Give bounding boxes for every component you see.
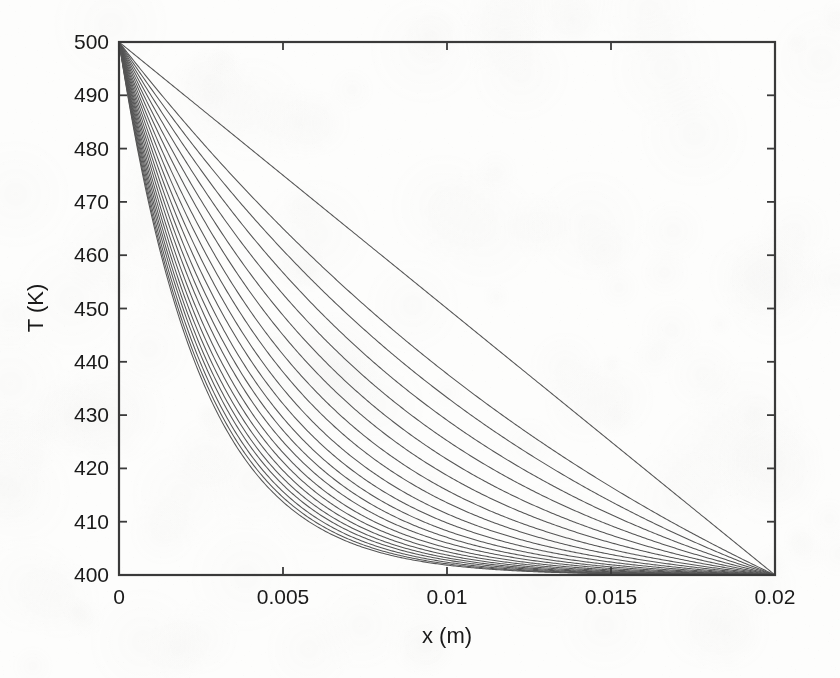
- y-tick-label: 470: [74, 190, 109, 214]
- x-tick-label: 0.01: [427, 585, 468, 609]
- y-tick-label: 490: [74, 83, 109, 107]
- x-tick-label: 0.005: [257, 585, 310, 609]
- figure-container: 400410420430440450460470480490500 00.005…: [0, 0, 840, 678]
- y-tick-label: 460: [74, 243, 109, 267]
- y-tick-label: 420: [74, 456, 109, 480]
- x-tick-label: 0: [113, 585, 125, 609]
- y-axis-label: T (K): [23, 278, 49, 338]
- y-tick-label: 410: [74, 510, 109, 534]
- y-tick-label: 400: [74, 563, 109, 587]
- y-tick-label: 430: [74, 403, 109, 427]
- plot-canvas: [0, 0, 840, 678]
- curve-line: [119, 42, 775, 575]
- y-tick-label: 440: [74, 350, 109, 374]
- y-tick-label: 500: [74, 30, 109, 54]
- curve-family: [119, 42, 775, 575]
- x-axis-label: x (m): [422, 623, 472, 649]
- x-tick-label: 0.015: [585, 585, 638, 609]
- y-tick-label: 450: [74, 297, 109, 321]
- y-tick-label: 480: [74, 137, 109, 161]
- x-tick-label: 0.02: [755, 585, 796, 609]
